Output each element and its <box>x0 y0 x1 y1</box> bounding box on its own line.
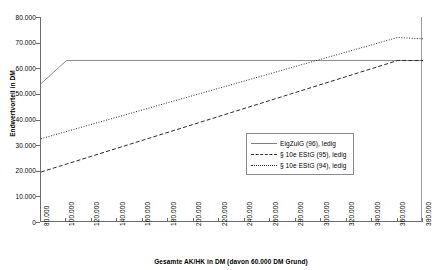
legend-item: EigZulG (96), ledig <box>251 138 349 149</box>
x-tick-mark <box>422 218 423 222</box>
y-tick-label: 60.000 <box>0 65 36 72</box>
y-tick-label: 40.000 <box>0 116 36 123</box>
x-tick-mark <box>65 218 66 222</box>
x-tick-label: 160.000 <box>144 202 151 226</box>
x-tick-mark <box>116 218 117 222</box>
x-tick-mark <box>346 218 347 222</box>
x-tick-mark <box>91 218 92 222</box>
series-line <box>41 61 423 172</box>
x-tick-label: 360.000 <box>399 202 406 226</box>
y-tick-label: 10.000 <box>0 193 36 200</box>
x-tick-mark <box>142 218 143 222</box>
legend-item-label: § 10e EStG (95), ledig <box>280 151 347 159</box>
plot-area <box>40 17 422 222</box>
x-tick-mark <box>40 218 41 222</box>
legend-item: § 10e EStG (94), ledig <box>251 160 349 171</box>
x-tick-mark <box>320 218 321 222</box>
y-axis-ticks: 010.00020.00030.00040.00050.00060.00070.… <box>0 0 40 270</box>
x-tick-mark <box>371 218 372 222</box>
x-tick-label: 80.000 <box>43 206 50 226</box>
y-tick-label: 30.000 <box>0 142 36 149</box>
y-tick-label: 50.000 <box>0 90 36 97</box>
x-tick-mark <box>269 218 270 222</box>
x-tick-label: 300.000 <box>323 202 330 226</box>
x-tick-mark <box>244 218 245 222</box>
legend-line-solid-icon <box>251 140 277 148</box>
x-tick-label: 260.000 <box>272 202 279 226</box>
legend-item-label: EigZulG (96), ledig <box>280 140 336 148</box>
legend-line-dashed-icon <box>251 151 277 159</box>
legend-item-label: § 10e EStG (94), ledig <box>280 162 347 170</box>
x-tick-label: 340.000 <box>374 202 381 226</box>
x-tick-mark <box>218 218 219 222</box>
x-tick-label: 380.000 <box>425 202 432 226</box>
y-tick-label: 70.000 <box>0 39 36 46</box>
x-tick-label: 220.000 <box>221 202 228 226</box>
x-tick-label: 140.000 <box>119 202 126 226</box>
y-tick-label: 80.000 <box>0 14 36 21</box>
x-tick-mark <box>397 218 398 222</box>
x-tick-label: 120.000 <box>93 202 100 226</box>
x-tick-label: 320.000 <box>348 202 355 226</box>
x-tick-mark <box>295 218 296 222</box>
plot-lines <box>41 17 423 222</box>
x-tick-label: 180.000 <box>170 202 177 226</box>
y-tick-label: 0 <box>0 219 36 226</box>
x-tick-mark <box>167 218 168 222</box>
y-tick-label: 20.000 <box>0 167 36 174</box>
x-tick-mark <box>193 218 194 222</box>
chart-legend: EigZulG (96), ledig § 10e EStG (95), led… <box>246 133 354 175</box>
chart-container: Endwertvorteil in DM 010.00020.00030.000… <box>0 0 434 270</box>
x-axis-title: Gesamte AK/HK in DM (davon 60.000 DM Gru… <box>40 258 422 265</box>
x-tick-label: 100.000 <box>68 202 75 226</box>
series-line <box>41 61 423 84</box>
legend-line-dotted-icon <box>251 162 277 170</box>
series-line <box>41 38 423 139</box>
x-tick-label: 200.000 <box>195 202 202 226</box>
x-tick-label: 240.000 <box>246 202 253 226</box>
legend-item: § 10e EStG (95), ledig <box>251 149 349 160</box>
x-tick-label: 280.000 <box>297 202 304 226</box>
